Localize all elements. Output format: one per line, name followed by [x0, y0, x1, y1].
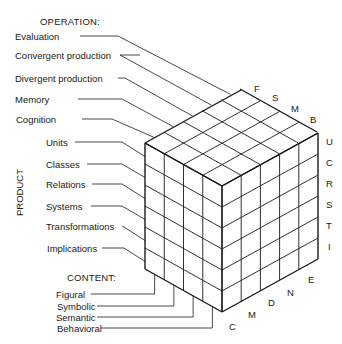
product-label-units: Units [46, 138, 68, 148]
product-code-c: C [326, 158, 333, 168]
product-code-t: T [326, 221, 332, 231]
operation-code-e: E [308, 275, 314, 285]
content-code-m: M [291, 104, 299, 114]
operation-code-d: D [268, 298, 275, 308]
content-code-s: S [272, 93, 278, 103]
content-label-figural: Figural [56, 290, 85, 300]
operation-label-divergent-production: Divergent production [15, 74, 103, 84]
product-label-relations: Relations [46, 180, 86, 190]
product-code-s: S [326, 200, 332, 210]
operation-label-evaluation: Evaluation [15, 32, 59, 42]
product-label-transformations: Transformations [46, 222, 114, 232]
content-label-behavioral: Behavioral [57, 324, 102, 334]
operation-code-m: M [248, 310, 256, 320]
product-code-u: U [326, 137, 333, 147]
operation-code-n: N [287, 288, 294, 298]
content-header: CONTENT: [67, 273, 116, 283]
product-label-classes: Classes [46, 160, 80, 170]
product-header: PRODUCT [14, 169, 25, 216]
product-code-i: I [328, 242, 331, 252]
operation-label-convergent-production: Convergent production [15, 51, 111, 61]
content-label-semantic: Semantic [56, 313, 96, 323]
content-code-f: F [254, 84, 260, 94]
product-code-r: R [326, 179, 333, 189]
product-label-implications: Implications [47, 244, 97, 254]
content-label-symbolic: Symbolic [57, 302, 96, 312]
operation-label-memory: Memory [15, 95, 49, 105]
operation-label-cognition: Cognition [16, 115, 56, 125]
operation-code-c: C [229, 322, 236, 332]
product-label-systems: Systems [46, 202, 82, 212]
content-code-b: B [310, 115, 316, 125]
operation-header: OPERATION: [40, 17, 100, 27]
